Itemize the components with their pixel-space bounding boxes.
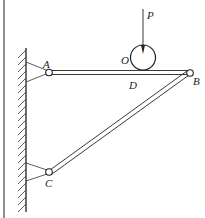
bar-ab — [51, 71, 187, 75]
truss-diagram: P O A B D C — [0, 0, 205, 218]
label-o: O — [121, 54, 129, 66]
label-a: A — [42, 58, 50, 70]
pin-c — [46, 169, 53, 176]
support-c — [26, 163, 47, 181]
label-d: D — [128, 79, 137, 91]
label-b: B — [193, 75, 200, 87]
force-arrow-p — [141, 9, 145, 54]
label-c: C — [45, 177, 53, 189]
wall — [18, 48, 26, 212]
pin-a — [46, 69, 53, 76]
label-p: P — [146, 9, 154, 21]
bar-cb — [50, 71, 189, 174]
